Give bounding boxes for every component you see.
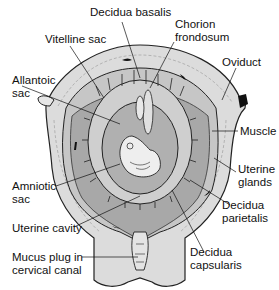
- label-vitelline-sac: Vitelline sac: [45, 33, 106, 46]
- label-oviduct: Oviduct: [222, 56, 261, 69]
- label-decidua-parietalis: Decidua parietalis: [222, 199, 268, 225]
- label-allantoic-sac-line1: Allantoic: [12, 74, 55, 87]
- label-decidua-basalis: Decidua basalis: [90, 6, 171, 19]
- label-uterine-glands-line1: Uterine: [238, 163, 275, 176]
- label-chorion-frondosum-line2: frondosum: [175, 31, 229, 44]
- label-mucus-plug-line1: Mucus plug in: [12, 251, 83, 264]
- label-chorion-frondosum-line1: Chorion: [175, 18, 229, 31]
- label-decidua-parietalis-line2: parietalis: [222, 212, 268, 225]
- label-allantoic-sac-line2: sac: [12, 87, 55, 100]
- label-amniotic-sac-line1: Amniotic: [12, 180, 56, 193]
- label-uterine-glands-line2: glands: [238, 176, 275, 189]
- label-decidua-parietalis-line1: Decidua: [222, 199, 268, 212]
- label-uterine-cavity: Uterine cavity: [12, 222, 82, 235]
- label-amniotic-sac: Amniotic sac: [12, 180, 56, 206]
- label-mucus-plug-line2: cervical canal: [12, 264, 83, 277]
- label-amniotic-sac-line2: sac: [12, 193, 56, 206]
- label-decidua-capsularis-line2: capsularis: [190, 259, 242, 272]
- label-uterine-glands: Uterine glands: [238, 163, 275, 189]
- label-decidua-capsularis: Decidua capsularis: [190, 246, 242, 272]
- label-decidua-capsularis-line1: Decidua: [190, 246, 242, 259]
- label-mucus-plug: Mucus plug in cervical canal: [12, 251, 83, 277]
- mucus-plug: [132, 232, 148, 270]
- label-allantoic-sac: Allantoic sac: [12, 74, 55, 100]
- uterus-diagram: Decidua basalis Chorion frondosum Vitell…: [0, 0, 279, 290]
- label-muscle: Muscle: [240, 125, 276, 138]
- label-chorion-frondosum: Chorion frondosum: [175, 18, 229, 44]
